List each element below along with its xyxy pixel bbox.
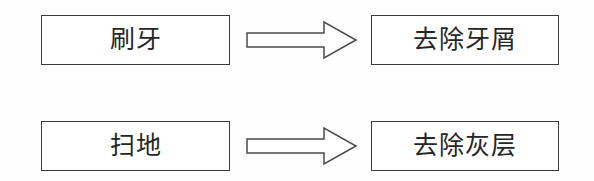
source-node-label: 扫地 — [110, 133, 162, 160]
right-arrow-icon — [246, 20, 358, 60]
right-arrow-icon — [246, 126, 358, 166]
target-node-label: 去除牙屑 — [413, 27, 517, 54]
target-node-box[interactable]: 去除灰层 — [371, 121, 559, 171]
target-node-box[interactable]: 去除牙屑 — [371, 15, 559, 65]
source-node-box[interactable]: 扫地 — [41, 121, 230, 171]
target-node-label: 去除灰层 — [413, 133, 517, 160]
flow-diagram: 刷牙 去除牙屑 扫地 去除灰层 — [0, 0, 594, 181]
diagram-row: 刷牙 去除牙屑 — [0, 15, 594, 67]
diagram-row: 扫地 去除灰层 — [0, 121, 594, 173]
source-node-box[interactable]: 刷牙 — [41, 15, 230, 65]
source-node-label: 刷牙 — [110, 27, 162, 54]
